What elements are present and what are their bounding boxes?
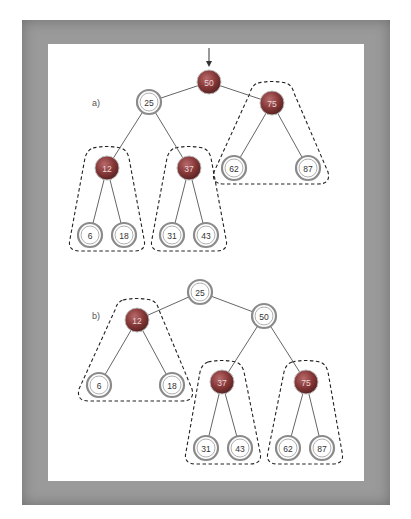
- node-value: 43: [235, 444, 245, 454]
- node-value: 12: [132, 316, 142, 326]
- tree-node-50: 50: [252, 304, 276, 328]
- node-value: 87: [317, 444, 327, 454]
- tree-node-31: 31: [160, 223, 184, 247]
- panel-a-label: a): [92, 98, 100, 108]
- tree-node-75: 75: [260, 91, 284, 115]
- tree-node-50: 50: [197, 70, 221, 94]
- node-value: 25: [144, 98, 154, 108]
- tree-node-75: 75: [294, 370, 318, 394]
- tree-node-37: 37: [210, 370, 234, 394]
- tree-node-18: 18: [112, 223, 136, 247]
- node-value: 18: [119, 231, 129, 241]
- panel-b: b) 251250618377531436287: [78, 280, 342, 464]
- panel-a: a) 502575123762876183143: [69, 48, 328, 251]
- tree-node-25: 25: [137, 90, 161, 114]
- tree-node-18: 18: [160, 373, 184, 397]
- node-value: 62: [283, 444, 293, 454]
- tree-node-6: 6: [87, 373, 111, 397]
- node-value: 50: [204, 78, 214, 88]
- panel-b-nodes: 251250618377531436287: [87, 280, 334, 460]
- root-arrow-icon: [206, 48, 212, 67]
- node-value: 12: [102, 164, 112, 174]
- tree-node-43: 43: [228, 436, 252, 460]
- node-value: 37: [184, 164, 194, 174]
- tree-node-25: 25: [188, 280, 212, 304]
- node-value: 37: [217, 378, 227, 388]
- tree-node-87: 87: [310, 436, 334, 460]
- tree-node-31: 31: [194, 436, 218, 460]
- tree-node-37: 37: [177, 156, 201, 180]
- tree-node-62: 62: [222, 156, 246, 180]
- panel-b-label: b): [92, 311, 100, 321]
- tree-node-43: 43: [194, 223, 218, 247]
- node-value: 87: [303, 164, 313, 174]
- tree-node-6: 6: [78, 223, 102, 247]
- node-value: 62: [229, 164, 239, 174]
- node-value: 25: [195, 288, 205, 298]
- node-value: 31: [167, 231, 177, 241]
- tree-node-87: 87: [296, 156, 320, 180]
- tree-node-62: 62: [276, 436, 300, 460]
- node-value: 50: [259, 312, 269, 322]
- panel-a-nodes: 502575123762876183143: [78, 70, 320, 247]
- tree-node-12: 12: [95, 156, 119, 180]
- node-value: 43: [201, 231, 211, 241]
- tree-diagram: a) 502575123762876183143 b) 251250618377…: [0, 0, 411, 519]
- node-value: 75: [267, 99, 277, 109]
- node-value: 31: [201, 444, 211, 454]
- node-value: 18: [167, 381, 177, 391]
- node-value: 6: [88, 231, 93, 241]
- node-value: 6: [97, 381, 102, 391]
- node-value: 75: [301, 378, 311, 388]
- tree-node-12: 12: [125, 308, 149, 332]
